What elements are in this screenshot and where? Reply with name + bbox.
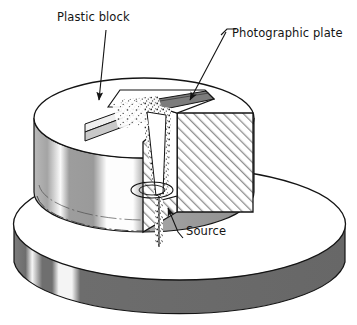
- label-source: Source: [186, 224, 226, 238]
- figure-canvas: Plastic block Photographic plate Source: [0, 0, 357, 325]
- label-photographic-plate: Photographic plate: [232, 26, 343, 40]
- cut-face-right: [177, 113, 253, 212]
- diagram-svg: [0, 0, 357, 325]
- label-plastic-block: Plastic block: [57, 10, 130, 24]
